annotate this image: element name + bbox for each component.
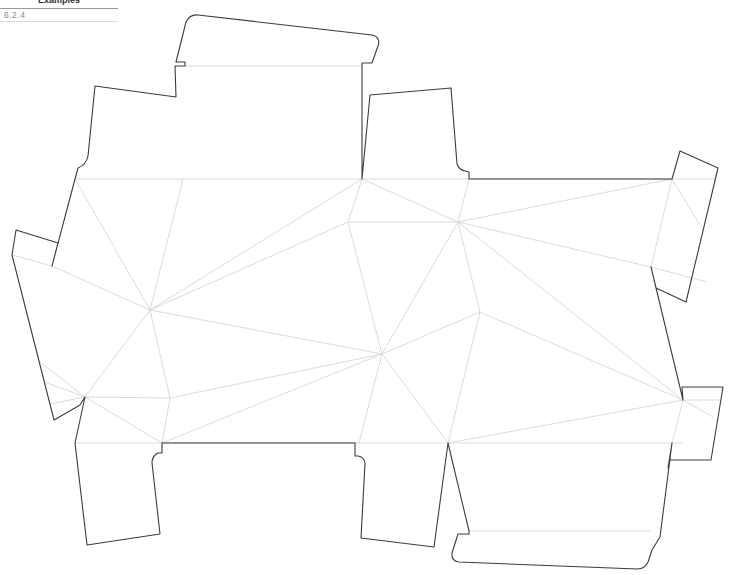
dieline-diagram xyxy=(0,0,736,575)
cut-lines xyxy=(12,15,723,569)
